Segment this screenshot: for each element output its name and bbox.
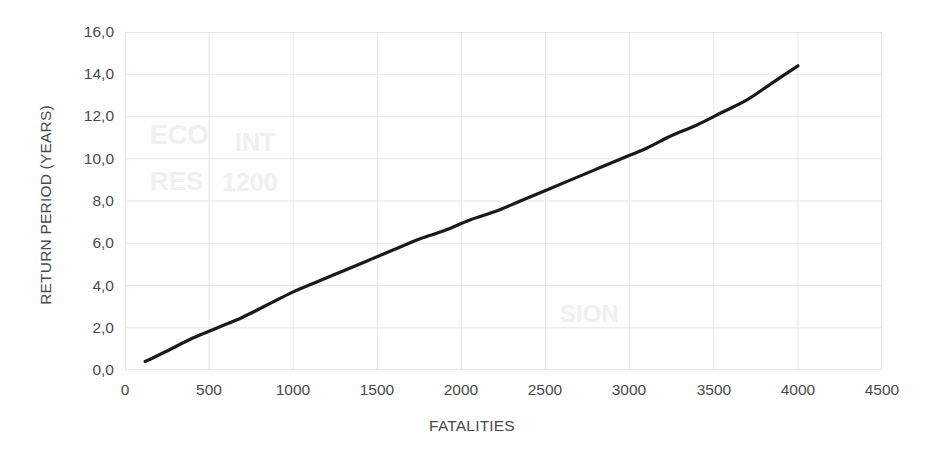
x-tick-label: 4500 [842, 381, 922, 399]
y-tick-label: 4,0 [58, 277, 114, 295]
x-tick-label: 3000 [589, 381, 669, 399]
x-tick-label: 4000 [758, 381, 838, 399]
y-tick-label: 16,0 [58, 23, 114, 41]
plot-area [125, 32, 882, 370]
y-tick-label: 6,0 [58, 234, 114, 252]
x-tick-label: 2500 [505, 381, 585, 399]
y-axis-title: RETURN PERIOD (YEARS) [37, 75, 55, 335]
x-axis-title: FATALITIES [0, 417, 944, 435]
y-tick-label: 14,0 [58, 65, 114, 83]
x-tick-label: 3500 [674, 381, 754, 399]
chart-canvas [125, 32, 882, 370]
y-tick-label: 10,0 [58, 150, 114, 168]
y-tick-label: 0,0 [58, 361, 114, 379]
y-tick-label: 8,0 [58, 192, 114, 210]
y-tick-label: 2,0 [58, 319, 114, 337]
x-tick-label: 0 [85, 381, 165, 399]
chart-figure: ECO INT RES 1200 SION RETURN PERIOD (YEA… [0, 0, 944, 455]
x-tick-label: 2000 [421, 381, 501, 399]
x-tick-label: 1000 [253, 381, 333, 399]
x-tick-label: 500 [169, 381, 249, 399]
data-series-line [145, 66, 798, 362]
x-tick-label: 1500 [337, 381, 417, 399]
y-tick-label: 12,0 [58, 107, 114, 125]
